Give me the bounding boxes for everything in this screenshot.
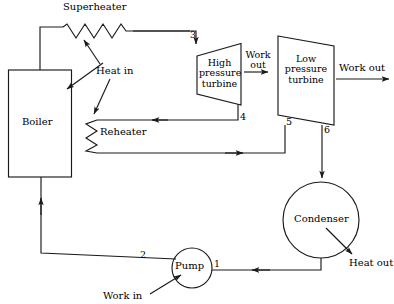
superheater-to-hp-turbine-line	[133, 31, 196, 44]
superheater-coil	[63, 24, 133, 38]
work-in-arrow	[150, 275, 181, 294]
state-point-1: 1	[214, 259, 220, 269]
heat-in-arrow-reheater	[94, 79, 110, 114]
diagram-vector-layer	[0, 0, 394, 304]
condenser-to-pump-line	[212, 258, 321, 270]
heat-in-arrow-superheater	[84, 40, 100, 64]
hp-turbine-label-line3: turbine	[199, 79, 240, 89]
heat-out-arrow	[326, 228, 352, 254]
reheater-coil	[86, 120, 97, 153]
rankine-cycle-diagram: Superheater Boiler Reheater Heat in High…	[0, 0, 394, 304]
state-point-5: 5	[286, 117, 292, 127]
state-point-2: 2	[140, 250, 146, 260]
reheater-label: Reheater	[100, 127, 146, 138]
condenser-label: Condenser	[294, 214, 349, 225]
lp-turbine-label-line2: pressure	[280, 64, 332, 74]
work-out-hp-line2: out	[244, 60, 272, 70]
low-pressure-turbine-label: Low pressure turbine	[280, 54, 332, 85]
high-pressure-turbine-label: High pressure turbine	[199, 58, 240, 89]
state-point-3: 3	[190, 30, 196, 40]
heat-in-label: Heat in	[96, 66, 133, 77]
lp-turbine-label-line3: turbine	[280, 75, 332, 85]
boiler-to-superheater-line	[40, 27, 63, 70]
boiler-label: Boiler	[22, 117, 52, 128]
work-in-label: Work in	[103, 291, 142, 302]
heat-out-label: Heat out	[349, 258, 393, 269]
work-out-hp-label: Work out	[244, 50, 272, 71]
work-out-lp-label: Work out	[339, 63, 385, 74]
state-point-6: 6	[324, 125, 330, 135]
superheater-label: Superheater	[63, 2, 126, 13]
hp-turbine-to-reheater-line	[97, 105, 238, 120]
pump-to-boiler-line	[41, 177, 176, 259]
pump-label: Pump	[175, 261, 204, 272]
state-point-4: 4	[240, 112, 246, 122]
hp-turbine-label-line2: pressure	[199, 68, 240, 78]
